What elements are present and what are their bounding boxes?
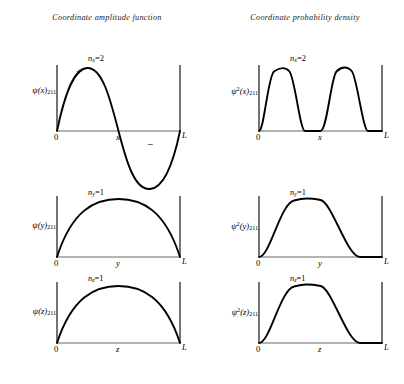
x-tick-origin-psi2-z: 0: [256, 344, 260, 354]
quantum-number-label-psi-z: nz=1: [88, 274, 104, 283]
plot-panel-psi-z: nz=1 ψ(z)211 0 z L: [0, 256, 202, 384]
x-tick-origin-psi2-x: 0: [256, 132, 260, 142]
quantum-number-label-psi2-z: nz=1: [290, 274, 306, 283]
quantum-number-label-psi-x: nx=2: [88, 54, 104, 63]
y-axis-label-psi2-y: ψ2(y)211: [208, 220, 258, 231]
x-tick-length-psi2-x: L: [384, 130, 389, 140]
plot-panel-psi-x: nx=2 ψ(x)211 0 x L + −: [0, 40, 202, 168]
sign-positive-psi-x: +: [76, 66, 82, 77]
x-axis-variable-psi2-z: z: [318, 344, 321, 354]
x-axis-variable-psi-x: x: [116, 132, 120, 142]
column-heading-probability: Coordinate probability density: [230, 12, 380, 23]
x-tick-length-psi-z: L: [182, 342, 187, 352]
column-heading-amplitude: Coordinate amplitude function: [32, 12, 182, 23]
quantum-number-label-psi-y: ny=1: [88, 188, 104, 197]
curve-psi-y: [57, 199, 180, 257]
y-axis-label-psi-z: ψ(z)211: [14, 306, 56, 316]
plot-panel-psi2-z: nz=1 ψ2(z)211 0 z L: [202, 256, 404, 384]
quantum-wavefunction-figure: Coordinate amplitude function Coordinate…: [0, 0, 404, 384]
x-tick-length-psi-x: L: [182, 130, 187, 140]
curve-psi2-x: [259, 68, 382, 131]
plot-panel-psi2-x: nx=2 ψ2(x)211 0 x L: [202, 40, 404, 168]
curve-psi-z: [57, 286, 180, 343]
x-tick-length-psi2-z: L: [384, 342, 389, 352]
x-axis-variable-psi-z: z: [116, 344, 119, 354]
y-axis-label-psi-y: ψ(y)211: [14, 220, 56, 230]
curve-psi2-y: [259, 199, 382, 257]
y-axis-label-psi2-z: ψ2(z)211: [208, 306, 258, 317]
x-tick-origin-psi-z: 0: [54, 344, 58, 354]
y-axis-label-psi2-x: ψ2(x)211: [208, 85, 258, 96]
quantum-number-label-psi2-x: nx=2: [290, 54, 306, 63]
quantum-number-label-psi2-y: ny=1: [290, 188, 306, 197]
y-axis-label-psi-x: ψ(x)211: [14, 85, 56, 95]
x-axis-variable-psi2-x: x: [318, 132, 322, 142]
sign-negative-psi-x: −: [147, 139, 153, 150]
curve-psi2-z: [259, 285, 382, 343]
x-tick-origin-psi-x: 0: [54, 132, 58, 142]
